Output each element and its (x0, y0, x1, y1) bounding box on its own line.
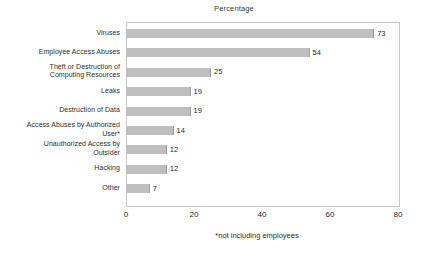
bar[interactable] (126, 107, 191, 116)
category-label-line: Hacking (94, 164, 120, 171)
category-label: Destruction of Data (2, 106, 120, 115)
chart-footnote-text: *not including employees (215, 231, 298, 241)
category-label: Employee Access Abuses (2, 48, 120, 57)
bar-row: Other7 (0, 178, 424, 198)
bar[interactable] (126, 68, 211, 77)
category-label-line: Employee Access Abuses (39, 48, 120, 55)
bar-value-label: 12 (170, 145, 178, 155)
bar-row: Unauthorized Access byOutsider12 (0, 139, 424, 159)
category-label-line: Leaks (101, 87, 120, 94)
bar[interactable] (126, 48, 310, 57)
bar-chart: Percentage Viruses73Employee Access Abus… (0, 0, 424, 258)
x-axis: 020406080 (126, 209, 400, 223)
bar-row: Access Abuses by AuthorizedUser*14 (0, 120, 424, 140)
category-label-line: Unauthorized Access by (44, 140, 120, 147)
category-label: Unauthorized Access byOutsider (2, 140, 120, 157)
category-label-line: Viruses (96, 29, 120, 36)
bar-value-label: 25 (214, 67, 222, 77)
bar-value-label: 73 (377, 29, 385, 39)
bar-row: Viruses73 (0, 23, 424, 43)
bar-value-label: 19 (194, 106, 202, 116)
category-label-line: Destruction of Data (59, 106, 120, 113)
bar-value-label: 12 (170, 164, 178, 174)
bar-value-label: 19 (194, 87, 202, 97)
category-label: Other (2, 184, 120, 193)
bar[interactable] (126, 29, 374, 38)
chart-title: Percentage (0, 4, 424, 14)
bar[interactable] (126, 87, 191, 96)
category-label: Hacking (2, 164, 120, 173)
chart-footnote: *not including employees (126, 231, 400, 241)
chart-title-text: Percentage (214, 4, 254, 14)
bar[interactable] (126, 126, 174, 135)
bar[interactable] (126, 145, 167, 154)
bar-row: Theft or Destruction ofComputing Resourc… (0, 62, 424, 82)
category-label: Access Abuses by AuthorizedUser* (2, 121, 120, 138)
bar-row: Hacking12 (0, 159, 424, 179)
category-label-line: User* (2, 130, 120, 139)
category-label-line: Access Abuses by Authorized (27, 121, 120, 128)
x-axis-tick-label: 60 (310, 209, 350, 220)
x-axis-tick-label: 0 (106, 209, 146, 220)
category-label-line: Theft or Destruction of (50, 63, 120, 70)
bar-value-label: 7 (153, 184, 157, 194)
bar-row: Destruction of Data19 (0, 101, 424, 121)
category-label-line: Outsider (2, 149, 120, 158)
x-axis-tick-label: 40 (242, 209, 282, 220)
category-label: Leaks (2, 87, 120, 96)
x-axis-tick-label: 80 (378, 209, 418, 220)
bar[interactable] (126, 165, 167, 174)
bar-row: Employee Access Abuses54 (0, 42, 424, 62)
category-label-line: Computing Resources (2, 71, 120, 80)
category-label: Viruses (2, 29, 120, 38)
bar[interactable] (126, 184, 150, 193)
bar-value-label: 54 (313, 48, 321, 58)
category-label-line: Other (102, 184, 120, 191)
bar-value-label: 14 (177, 126, 185, 136)
x-axis-tick-label: 20 (174, 209, 214, 220)
bar-row: Leaks19 (0, 81, 424, 101)
category-label: Theft or Destruction ofComputing Resourc… (2, 63, 120, 80)
